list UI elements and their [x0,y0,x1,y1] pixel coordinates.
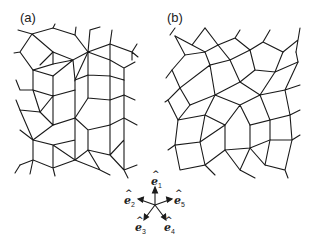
tiling-a [14,24,138,178]
basis-label-e5: ^e5 [174,195,185,208]
basis-label-e3: ^e3 [135,222,146,235]
basis-label-e1: ^e1 [151,176,162,189]
tiling-b [165,28,300,178]
basis-label-e4: ^e4 [164,222,175,235]
figure-canvas [0,0,315,244]
basis-label-e2: ^e2 [124,195,135,208]
